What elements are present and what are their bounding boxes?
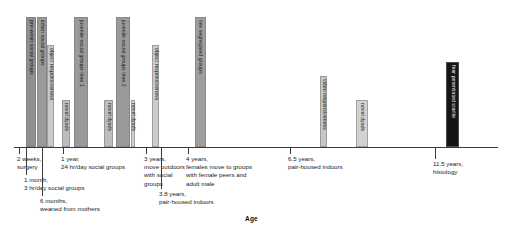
timeline-bar: infant social groups — [37, 17, 47, 147]
bar-label: juvenile social groups time 2 — [120, 20, 125, 87]
axis-tick — [42, 147, 43, 196]
timeline-bar: sex segregated groups — [195, 17, 207, 147]
timeline-bar: video responsiveness — [320, 76, 327, 147]
timeline-bar: pre-wean social groups — [26, 17, 36, 147]
bar-label: sex segregated groups — [198, 20, 203, 74]
bar-label: juvenile social groups time 1 — [78, 20, 83, 87]
bar-label: novel dyads — [130, 103, 135, 131]
axis-tick — [19, 147, 20, 154]
callout-3-8-years: 3.8 years, pair-housed indoors — [159, 190, 214, 206]
axis-tick — [290, 147, 291, 154]
callout-1-month: 1 month, 3 hr/day social groups — [24, 176, 85, 192]
timeline-bar: novel dyads — [131, 100, 136, 147]
callout-11-5-years: 11.5 years, histology — [433, 160, 463, 176]
age-axis-line — [14, 147, 498, 148]
callout-1-year: 1 year, 24 hr/day social groups — [61, 155, 125, 171]
axis-tick — [188, 147, 189, 154]
bar-label: object responsiveness — [48, 48, 53, 100]
axis-tick — [161, 147, 162, 189]
timeline-bar: fear potentiated startle — [446, 62, 459, 147]
bar-label: pre-wean social groups — [28, 20, 33, 75]
callout-6-months: 6 months, weaned from mothers — [40, 197, 100, 213]
bar-label: object responsiveness — [153, 48, 158, 100]
timeline-bar: object responsiveness — [47, 45, 54, 147]
timeline-bar: novel dyads — [356, 100, 368, 147]
callout-3-years: 3 years, move outdoors with social group… — [144, 155, 185, 188]
callout-4-years: 4 years, females move to groups with fem… — [186, 155, 252, 188]
axis-tick — [146, 147, 147, 154]
axis-tick — [435, 147, 436, 159]
bar-label: infant social groups — [39, 20, 44, 66]
timeline-bar: novel dyads — [62, 100, 71, 147]
timeline-bar: juvenile social groups time 2 — [116, 17, 129, 147]
bar-label: novel dyads — [359, 103, 364, 131]
callout-6-5-years: 6.5 years, pair-housed indoors — [288, 155, 343, 171]
callout-2-weeks: 2 weeks, surgery — [17, 155, 41, 171]
bar-label: novel dyads — [63, 103, 68, 131]
timeline-chart: pre-wean social groupsinfant social grou… — [0, 0, 512, 234]
bar-label: fear potentiated startle — [450, 65, 455, 118]
axis-title-age: Age — [245, 215, 258, 222]
axis-tick — [63, 147, 64, 154]
bar-label: novel dyads — [106, 103, 111, 131]
timeline-bar: juvenile social groups time 1 — [74, 17, 87, 147]
bar-label: video responsiveness — [321, 79, 326, 130]
timeline-bar: novel dyads — [104, 100, 113, 147]
axis-tick — [26, 147, 27, 175]
timeline-bar: object responsiveness — [152, 45, 159, 147]
